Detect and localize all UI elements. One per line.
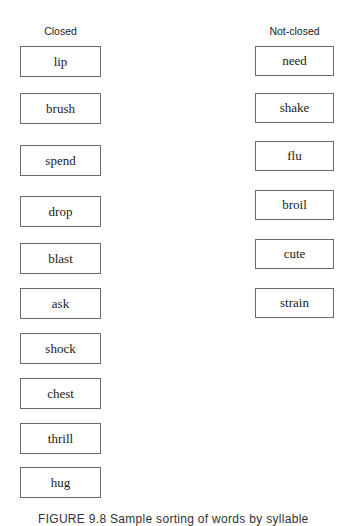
word-card[interactable]: strain bbox=[255, 288, 334, 318]
figure-caption: FIGURE 9.8 Sample sorting of words by sy… bbox=[38, 512, 309, 526]
word-card[interactable]: spend bbox=[20, 145, 101, 176]
word-card[interactable]: blast bbox=[20, 243, 101, 274]
word-card[interactable]: flu bbox=[255, 141, 334, 171]
word-card[interactable]: drop bbox=[20, 196, 101, 227]
word-card[interactable]: need bbox=[255, 46, 334, 76]
word-card[interactable]: shock bbox=[20, 333, 101, 364]
word-card[interactable]: shake bbox=[255, 93, 334, 123]
word-card[interactable]: broil bbox=[255, 190, 334, 220]
closed-column-header: Closed bbox=[20, 25, 101, 37]
word-card[interactable]: ask bbox=[20, 288, 101, 319]
word-card[interactable]: brush bbox=[20, 93, 101, 124]
word-card[interactable]: chest bbox=[20, 378, 101, 409]
word-card[interactable]: thrill bbox=[20, 423, 101, 454]
word-card[interactable]: cute bbox=[255, 239, 334, 269]
word-card[interactable]: hug bbox=[20, 467, 101, 498]
word-card[interactable]: lip bbox=[20, 46, 101, 77]
not-closed-column-header: Not-closed bbox=[255, 25, 334, 37]
